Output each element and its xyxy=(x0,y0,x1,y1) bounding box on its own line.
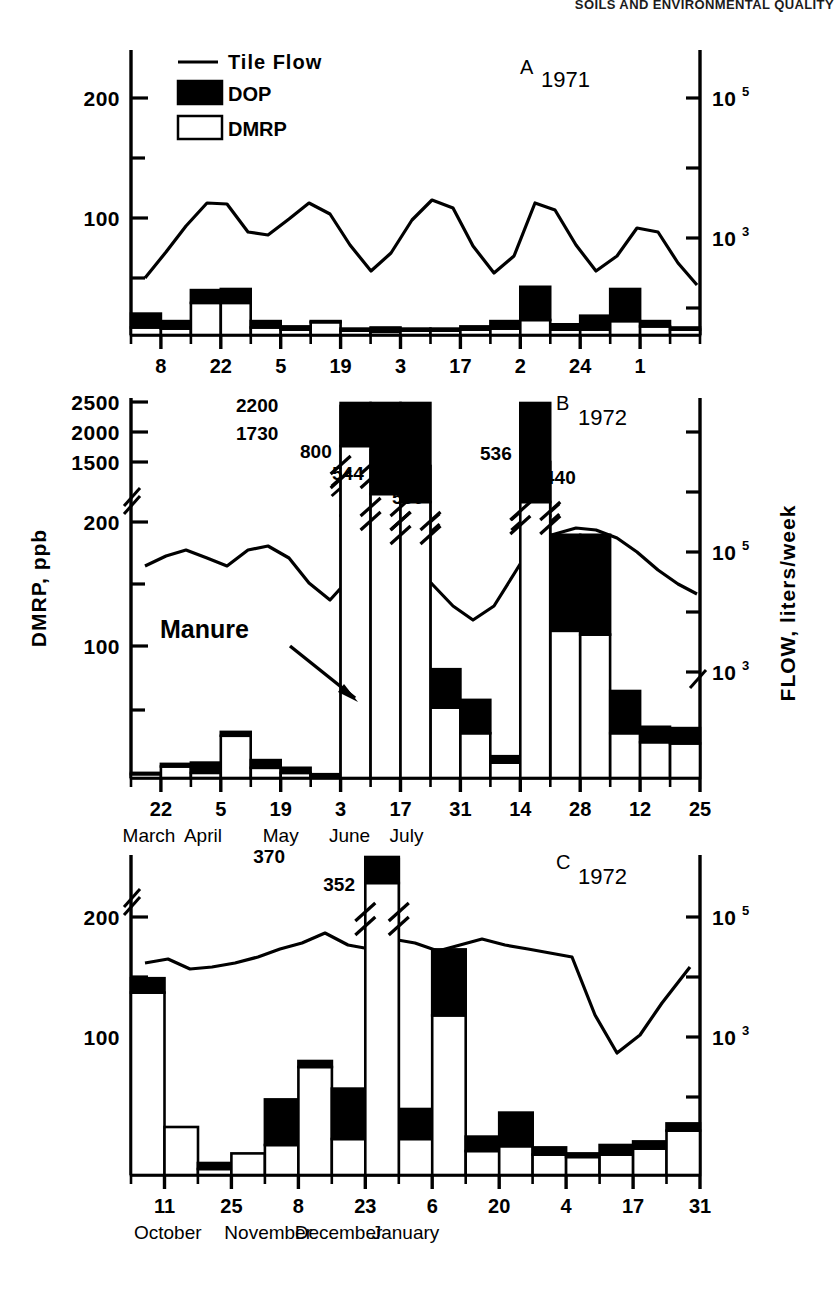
month-label: December xyxy=(295,1222,383,1243)
panel-b-year: 1972 xyxy=(578,405,627,430)
bar-dmrp xyxy=(221,303,251,335)
x-tick-label: 23 xyxy=(354,1195,376,1217)
bar-dop xyxy=(401,329,431,331)
bar-dop xyxy=(610,289,640,321)
bar-value-annotation: 440 xyxy=(544,467,576,488)
panel-b-right-label-10e5: 10 5 xyxy=(712,538,749,564)
panel-b-plot: 2500 2000 1500 200 100 DMRP, ppb 10 5 10… xyxy=(0,388,840,858)
month-label: May xyxy=(413,382,449,385)
bar-dop xyxy=(600,1145,634,1155)
bar-dop xyxy=(251,321,281,327)
svg-text:5: 5 xyxy=(742,538,749,553)
bar-dmrp xyxy=(610,733,640,778)
bar-dop xyxy=(670,328,700,330)
panel-c-annotations: 370352 xyxy=(253,846,355,895)
bar-value-annotation: 500 xyxy=(392,487,424,508)
month-label: March xyxy=(165,382,218,385)
panel-a-month-labels: MarchAprilMayJuneJuly xyxy=(165,382,676,385)
panel-a-right-label-10e3: 10 3 xyxy=(712,224,749,250)
manure-annotation: Manure xyxy=(160,615,358,702)
panel-c-xticklabels: 112582362041731 xyxy=(154,1195,711,1217)
bar-dop xyxy=(341,329,371,331)
bar-dop xyxy=(550,324,580,329)
bar-dop xyxy=(265,1099,299,1145)
bar-dop xyxy=(298,1061,332,1067)
panel-b-left-ticks xyxy=(131,402,148,710)
panel-a-year: 1971 xyxy=(541,67,590,92)
x-tick-label: 3 xyxy=(395,355,406,377)
month-label: June xyxy=(530,382,571,385)
bar-dop xyxy=(640,321,670,326)
bar-dmrp xyxy=(566,1157,600,1175)
x-tick-label: 17 xyxy=(389,798,411,820)
bar-dop xyxy=(251,760,281,768)
bar-dop xyxy=(332,1089,366,1139)
x-tick-label: 8 xyxy=(155,355,166,377)
panel-b-right-label-10e3: 10 3 xyxy=(712,658,749,684)
panel-b-ytick-100: 100 xyxy=(83,635,120,658)
panel-b-ytick-2000: 2000 xyxy=(71,421,120,444)
bar-dop xyxy=(499,1113,533,1147)
panel-a-ytick-200: 200 xyxy=(83,87,120,110)
bar-dmrp-clipped xyxy=(401,502,431,778)
bar-value-annotation: 370 xyxy=(253,846,285,867)
bar-dop xyxy=(161,321,191,329)
x-tick-label: 25 xyxy=(220,1195,242,1217)
bar-dmrp xyxy=(533,1155,567,1175)
bar-dmrp xyxy=(265,1145,299,1175)
bar-dmrp xyxy=(600,1155,634,1175)
panel-a-letter: A xyxy=(520,56,534,78)
bar-dmrp-clipped xyxy=(520,502,550,778)
panel-b-left-axis-title: DMRP, ppb xyxy=(27,529,50,647)
bar-dop xyxy=(520,287,550,320)
panel-a-bars xyxy=(131,287,700,335)
panel-c-right-ticks xyxy=(686,917,700,1151)
bar-dop xyxy=(490,321,520,329)
panel-b-month-labels: MarchAprilMayJuneJuly xyxy=(123,825,424,846)
bar-dmrp xyxy=(580,635,610,778)
panel-b-right-axis-title: FLOW, liters/week xyxy=(776,505,799,702)
panel-b-letter: B xyxy=(556,392,569,414)
panel-b-bars xyxy=(131,403,700,778)
bar-dmrp-clipped xyxy=(341,446,371,778)
bar-dmrp xyxy=(165,1127,199,1175)
svg-text:10: 10 xyxy=(712,541,736,564)
bar-dop xyxy=(161,764,191,767)
bar-value-annotation: 300 xyxy=(259,482,286,499)
bar-dop xyxy=(633,1141,667,1148)
bar-dop xyxy=(131,314,161,328)
x-tick-label: 22 xyxy=(150,798,172,820)
panel-a-plot: 200 100 10 5 10 3 Tile Flow DOP DMRP A xyxy=(0,40,840,385)
panel-c-year: 1972 xyxy=(578,864,627,889)
panel-b-ytick-200: 200 xyxy=(83,511,120,534)
bar-dmrp xyxy=(610,321,640,335)
x-tick-label: 4 xyxy=(561,1195,573,1217)
bar-dmrp-clipped xyxy=(371,494,401,778)
x-tick-label: 25 xyxy=(689,798,711,820)
x-tick-label: 22 xyxy=(210,355,232,377)
bar-dop-clipped xyxy=(341,406,371,446)
bar-dop xyxy=(311,321,341,322)
svg-text:5: 5 xyxy=(742,903,749,918)
panel-b-xticks xyxy=(131,778,700,792)
bar-dmrp xyxy=(460,733,490,778)
panel-c-right-label-10e3: 10 3 xyxy=(712,1023,749,1049)
bar-dmrp xyxy=(251,768,281,778)
legend-label-tile-flow: Tile Flow xyxy=(228,51,322,73)
panel-a-xticklabels: 8225193172241 xyxy=(155,355,645,377)
legend-open-square-swatch xyxy=(178,116,222,139)
bar-dop xyxy=(466,1137,500,1151)
panel-b-right-ticks xyxy=(686,432,700,732)
x-tick-label: 14 xyxy=(509,798,532,820)
x-tick-label: 28 xyxy=(569,798,591,820)
panel-c-letter: C xyxy=(556,851,570,873)
bar-dop xyxy=(221,732,251,736)
legend: Tile Flow DOP DMRP xyxy=(178,51,322,140)
legend-label-dop: DOP xyxy=(228,83,271,105)
month-label: April xyxy=(292,382,330,385)
running-head: SOILS AND ENVIRONMENTAL QUALITY xyxy=(0,0,840,12)
bar-dmrp-clipped xyxy=(365,883,399,1175)
panel-c-plot: 200 100 10 5 10 3 C 1972 370352 11258236… xyxy=(0,845,840,1285)
svg-text:3: 3 xyxy=(742,1023,749,1038)
panel-c-ytick-100: 100 xyxy=(83,1026,120,1049)
